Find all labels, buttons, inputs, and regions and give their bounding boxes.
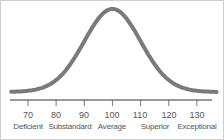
tick-label-70: 70	[13, 110, 43, 120]
bell-curve-line	[11, 9, 217, 92]
category-label-exceptional: Exceptional	[169, 122, 224, 132]
x-axis-ticks	[28, 100, 197, 106]
tick-label-110: 110	[125, 110, 155, 120]
tick-label-80: 80	[41, 110, 71, 120]
tick-label-130: 130	[182, 110, 212, 120]
tick-label-90: 90	[69, 110, 99, 120]
tick-label-100: 100	[97, 110, 127, 120]
tick-label-120: 120	[154, 110, 184, 120]
